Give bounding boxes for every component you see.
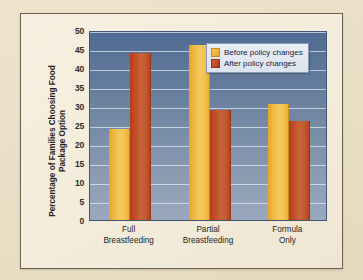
x-axis-label-line: Formula bbox=[272, 225, 302, 236]
y-axis-tick-label: 30 bbox=[75, 102, 84, 112]
x-axis-label-line: Partial bbox=[183, 225, 234, 236]
x-axis-label-line: Breastfeeding bbox=[103, 236, 154, 247]
y-axis: 05101520253035404550 bbox=[57, 31, 87, 221]
legend-item: After policy changes bbox=[211, 58, 303, 69]
legend-item: Before policy changes bbox=[211, 47, 303, 58]
x-axis-label-line: Full bbox=[103, 225, 154, 236]
y-axis-tick-label: 35 bbox=[75, 83, 84, 93]
bar-after bbox=[210, 110, 231, 220]
figure-page: Percentage of Families Choosing Food Pac… bbox=[0, 0, 363, 280]
bar-before bbox=[109, 129, 130, 220]
legend-item-label: Before policy changes bbox=[224, 49, 303, 57]
chart-legend: Before policy changesAfter policy change… bbox=[206, 43, 309, 73]
y-axis-tick-label: 45 bbox=[75, 45, 84, 55]
bar-after bbox=[130, 53, 151, 220]
legend-item-label: After policy changes bbox=[224, 60, 296, 68]
y-axis-tick-label: 15 bbox=[75, 159, 84, 169]
y-axis-tick-label: 5 bbox=[79, 197, 84, 207]
x-axis-category-label: PartialBreastfeeding bbox=[183, 225, 234, 246]
y-axis-tick-label: 0 bbox=[79, 216, 84, 226]
y-axis-tick-label: 40 bbox=[75, 64, 84, 74]
x-axis-category-label: FullBreastfeeding bbox=[103, 225, 154, 246]
plot-wrapper: Before policy changesAfter policy change… bbox=[89, 31, 327, 221]
bar-after bbox=[289, 121, 310, 220]
legend-swatch-icon bbox=[211, 59, 220, 68]
x-axis-labels: FullBreastfeedingPartialBreastfeedingFor… bbox=[89, 225, 327, 259]
x-axis-label-line: Breastfeeding bbox=[183, 236, 234, 247]
legend-swatch-icon bbox=[211, 48, 220, 57]
figure-frame: Percentage of Families Choosing Food Pac… bbox=[20, 13, 343, 269]
bar-before bbox=[268, 104, 289, 220]
x-axis-label-line: Only bbox=[272, 236, 302, 247]
y-axis-tick-label: 20 bbox=[75, 140, 84, 150]
y-axis-tick-label: 50 bbox=[75, 26, 84, 36]
y-axis-tick-label: 25 bbox=[75, 121, 84, 131]
y-axis-tick-label: 10 bbox=[75, 178, 84, 188]
x-axis-category-label: FormulaOnly bbox=[272, 225, 302, 246]
